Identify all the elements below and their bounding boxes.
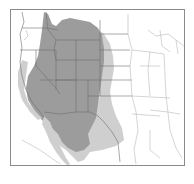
range-map	[0, 0, 194, 184]
map-canvas	[0, 0, 194, 184]
